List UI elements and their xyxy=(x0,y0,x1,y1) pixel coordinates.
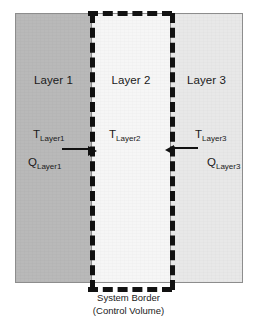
layer-3-temperature-symbol: T xyxy=(195,128,202,140)
layer-1-temperature-label: TLayer1 xyxy=(33,128,65,140)
layer-2-region: Layer 2 TLayer2 xyxy=(91,14,171,282)
layer-1-temperature-symbol: T xyxy=(33,128,40,140)
wall-assembly: Layer 1 TLayer1 QLayer1 Layer 2 TLayer2 … xyxy=(15,13,243,283)
caption-line-2: (Control Volume) xyxy=(0,305,257,318)
layer-1-heat-symbol: Q xyxy=(28,156,37,168)
layer-3-temperature-label: TLayer3 xyxy=(195,128,227,140)
layer-1-temperature-subscript: Layer1 xyxy=(40,134,64,143)
layer-2-temperature-label: TLayer2 xyxy=(109,128,141,140)
heat-flow-arrow-layer3-icon xyxy=(174,147,198,149)
layer-3-title: Layer 3 xyxy=(171,74,242,86)
layer-1-heat-subscript: Layer1 xyxy=(37,162,61,171)
layer-2-temperature-subscript: Layer2 xyxy=(116,134,140,143)
layer-2-title: Layer 2 xyxy=(92,74,170,86)
layer-2-temperature-symbol: T xyxy=(109,128,116,140)
layer-3-heat-symbol: Q xyxy=(207,156,216,168)
heat-flow-arrow-layer1-icon xyxy=(62,148,88,150)
layer-3-temperature-subscript: Layer3 xyxy=(202,134,226,143)
layer-3-heat-label: QLayer3 xyxy=(207,156,240,168)
layer-1-heat-label: QLayer1 xyxy=(28,156,61,168)
figure-caption: System Border (Control Volume) xyxy=(0,292,257,317)
caption-line-1: System Border xyxy=(0,292,257,305)
layer-3-heat-subscript: Layer3 xyxy=(216,162,240,171)
layer-1-title: Layer 1 xyxy=(16,74,91,86)
layer-2-texture xyxy=(92,14,170,282)
three-layer-wall-diagram: Layer 1 TLayer1 QLayer1 Layer 2 TLayer2 … xyxy=(0,0,257,324)
